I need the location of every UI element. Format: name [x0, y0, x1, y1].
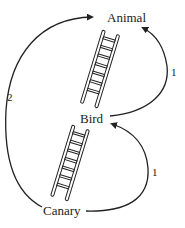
node-canary: Canary [43, 204, 81, 217]
arrow-canary-to-bird [86, 124, 148, 211]
ladder-icon [51, 125, 90, 201]
edge-label-canary-bird: 1 [152, 167, 158, 178]
edge-label-bird-animal: 1 [171, 67, 177, 78]
arrow-bird-to-animal [110, 28, 167, 116]
edge-label-canary-animal: 2 [7, 92, 13, 103]
node-animal: Animal [107, 11, 146, 24]
ladder-icon [80, 30, 119, 108]
hierarchy-diagram: Animal Bird Canary 1 2 1 [0, 0, 185, 228]
node-bird: Bird [80, 112, 103, 125]
